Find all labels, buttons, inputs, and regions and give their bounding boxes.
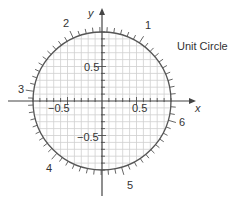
radian-minor-tick <box>163 66 167 68</box>
radian-minor-tick <box>94 170 95 175</box>
radian-minor-tick <box>58 41 61 45</box>
radian-minor-tick <box>36 132 40 134</box>
radian-minor-tick <box>156 145 160 148</box>
radian-label-5: 5 <box>127 180 133 191</box>
radian-major-tick <box>168 120 176 122</box>
radian-minor-tick <box>35 69 40 71</box>
radian-minor-tick <box>166 127 171 129</box>
radian-minor-tick <box>66 161 68 165</box>
radian-minor-tick <box>160 139 164 142</box>
radian-minor-tick <box>30 83 35 84</box>
radian-minor-tick <box>33 125 38 127</box>
radian-minor-tick <box>43 57 47 60</box>
radian-minor-tick <box>43 143 47 146</box>
radian-major-tick <box>52 153 57 159</box>
radian-minor-tick <box>151 150 155 154</box>
radian-label-3: 3 <box>18 84 24 95</box>
unit-circle-diagram: Unit Circle y x −0.5 0.5 0.5 −0.5 1 2 3 … <box>0 0 231 204</box>
radian-label-4: 4 <box>46 163 52 174</box>
radian-minor-tick <box>115 169 116 174</box>
y-tick-label-pos-half: 0.5 <box>84 62 99 73</box>
radian-minor-tick <box>128 165 130 170</box>
radian-minor-tick <box>79 167 81 172</box>
radian-minor-tick <box>170 86 175 87</box>
y-tick-label-neg-half: −0.5 <box>77 132 99 143</box>
radian-minor-tick <box>168 79 173 80</box>
radian-minor-tick <box>47 51 51 54</box>
radian-minor-tick <box>155 53 159 56</box>
radian-minor-tick <box>29 112 34 113</box>
radian-minor-tick <box>53 46 56 50</box>
x-tick-label-neg-half: −0.5 <box>48 103 70 114</box>
diagram-title: Unit Circle <box>177 40 228 52</box>
radian-minor-tick <box>133 35 135 39</box>
radian-minor-tick <box>39 63 43 66</box>
radian-minor-tick <box>48 148 52 151</box>
radian-label-1: 1 <box>145 20 151 31</box>
radian-major-tick <box>122 167 124 175</box>
radian-minor-tick <box>85 29 86 34</box>
radian-minor-tick <box>92 28 93 33</box>
radian-label-6: 6 <box>179 117 185 128</box>
radian-minor-tick <box>127 32 129 37</box>
radian-minor-tick <box>39 138 43 141</box>
x-tick-label-pos-half: 0.5 <box>132 103 147 114</box>
radian-minor-tick <box>86 168 87 173</box>
radian-minor-tick <box>146 154 149 158</box>
radian-minor-tick <box>150 48 153 52</box>
radian-minor-tick <box>114 28 115 33</box>
radian-minor-tick <box>163 133 167 135</box>
x-axis-label: x <box>195 103 201 114</box>
radian-major-tick <box>26 90 34 91</box>
radian-minor-tick <box>170 114 175 115</box>
radian-minor-tick <box>120 30 121 35</box>
radian-minor-tick <box>72 164 74 169</box>
radian-minor-tick <box>30 119 35 120</box>
radian-minor-tick <box>65 37 68 41</box>
radian-minor-tick <box>32 76 37 78</box>
radian-major-tick <box>70 31 73 38</box>
radian-minor-tick <box>159 59 163 62</box>
y-axis-label: y <box>88 8 94 19</box>
radian-minor-tick <box>145 43 148 47</box>
radian-label-2: 2 <box>63 18 69 29</box>
radian-minor-tick <box>134 162 136 166</box>
radian-minor-tick <box>140 158 143 162</box>
radian-major-tick <box>139 36 143 43</box>
radian-minor-tick <box>166 72 171 74</box>
y-axis-arrow-icon <box>99 8 105 15</box>
radian-minor-tick <box>59 157 62 161</box>
radian-minor-tick <box>78 31 80 36</box>
